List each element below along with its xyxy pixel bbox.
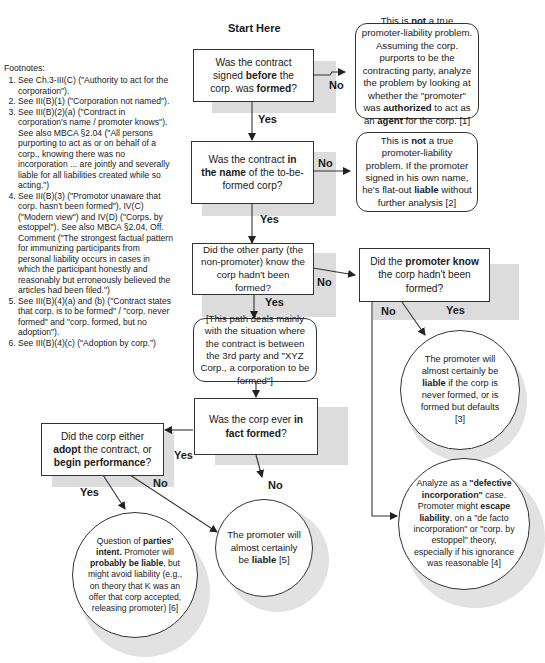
edge-label-q5-yes: Yes [174,449,193,461]
edge-label-q6-yes: Yes [80,486,99,498]
edge-label-q4-no: No [381,305,396,317]
edge-q3-no [313,268,355,275]
question-corp-adopt-or-perform: Did the corp either adopt the contract, … [41,423,164,476]
result-parties-intent: Question of parties' intent. Promoter wi… [72,512,198,638]
edge-label-q3-yes: Yes [265,296,284,308]
question-in-name-of-corp: Was the contract in the name of the to-b… [191,141,314,204]
result-not-promoter-flat-out-liable: This is not a true promoter-liability pr… [356,132,478,212]
footnote-6: See III(B)(4)(c) ("Adoption by corp.") [18,338,174,348]
start-here-label: Start Here [228,22,281,34]
footnote-1: See Ch.3-III(C) ("Authority to act for t… [18,75,174,96]
result-defective-incorporation: Analyze as a "defective incorporation" c… [398,458,530,590]
footnote-3: See III(B)(2)(a) ("Contract in corporati… [18,107,174,191]
edge-q4-no [372,302,397,516]
edge-label-q2-no: No [318,157,333,169]
edge-label-q6-no: No [153,477,168,489]
edge-q4-yes [402,302,425,335]
footnote-2: See III(B)(1) ("Corporation not named"). [18,96,174,106]
footnotes-heading: Footnotes: [4,63,174,73]
question-promoter-knew: Did the promoter know the corp hadn't be… [359,248,490,302]
edge-label-q2-yes: Yes [260,213,279,225]
result-liable-never-formed-or-defaults: The promoter will almost certainly be li… [400,330,520,450]
footnotes: Footnotes: See Ch.3-III(C) ("Authority t… [4,63,174,348]
question-corp-in-fact-formed: Was the corp ever in fact formed? [194,398,318,455]
edge-label-q3-no: No [317,276,332,288]
result-almost-certainly-liable: The promoter will almost certainly be li… [215,499,313,597]
edge-q1-no [313,72,345,75]
edge-label-q1-yes: Yes [258,113,277,125]
edge-label-q5-no: No [268,479,283,491]
footnote-5: See III(B)(4)(a) and (b) ("Contract stat… [18,296,174,338]
note-xyz-corp-path: [This path deals mainly with the situati… [193,318,317,382]
footnotes-list: See Ch.3-III(C) ("Authority to act for t… [4,75,174,348]
edge-q5-no [256,455,262,477]
footnote-4: See III(B)(3) ("Promotor unaware that co… [18,191,174,296]
question-signed-before-formed: Was the contract signed before the corp.… [193,49,314,102]
edge-q6-yes [103,475,125,509]
edge-label-q4-yes: Yes [446,304,465,316]
edge-label-q1-no: No [329,79,344,91]
result-not-promoter-authorized-agent: This is not a true promoter-liability pr… [355,23,479,119]
question-other-party-knew: Did the other party (the non-promoter) k… [192,243,314,295]
